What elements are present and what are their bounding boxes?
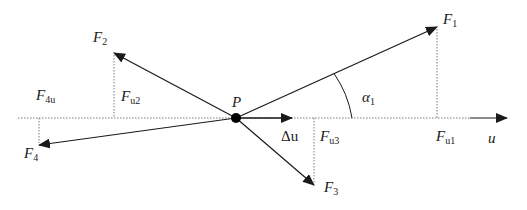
f4u-text: F xyxy=(36,87,45,103)
label-f3: F3 xyxy=(324,180,338,197)
label-f1: F1 xyxy=(443,12,457,29)
fu3-sub: u3 xyxy=(329,135,339,146)
label-alpha1: α1 xyxy=(362,90,375,107)
f2-text: F xyxy=(93,29,102,45)
label-fu1: Fu1 xyxy=(436,129,455,146)
label-f4u: F4u xyxy=(36,88,55,105)
u-axis-text: u xyxy=(488,130,496,146)
fu3-text: F xyxy=(320,128,329,144)
f4-text: F xyxy=(24,145,33,161)
label-u-axis: u xyxy=(488,131,496,146)
angle-arc-alpha1 xyxy=(334,74,352,119)
alpha-text: α xyxy=(362,89,370,105)
label-delta-u: Δu xyxy=(281,129,298,144)
fu1-text: F xyxy=(436,128,445,144)
fu1-sub: u1 xyxy=(445,135,455,146)
fu2-text: F xyxy=(121,88,130,104)
f3-sub: 3 xyxy=(333,186,338,197)
force-vector-f1 xyxy=(236,27,437,118)
f3-text: F xyxy=(324,179,333,195)
force-diagram: P F1 F2 F3 F4 Fu1 Fu2 Fu3 F4u Δu α1 u xyxy=(0,0,527,210)
f4-sub: 4 xyxy=(33,152,38,163)
point-p xyxy=(231,113,241,123)
f1-text: F xyxy=(443,11,452,27)
f4u-sub: 4u xyxy=(45,94,55,105)
delta-u-text: Δu xyxy=(281,128,298,144)
point-p-text: P xyxy=(232,94,241,110)
label-point-p: P xyxy=(232,95,241,110)
label-f4: F4 xyxy=(24,146,38,163)
f2-sub: 2 xyxy=(102,36,107,47)
label-f2: F2 xyxy=(93,30,107,47)
alpha-sub: 1 xyxy=(370,96,375,107)
fu2-sub: u2 xyxy=(130,95,140,106)
force-vector-f4 xyxy=(39,118,236,145)
label-fu3: Fu3 xyxy=(320,129,339,146)
diagram-graphics xyxy=(0,0,527,210)
label-fu2: Fu2 xyxy=(121,89,140,106)
f1-sub: 1 xyxy=(452,18,457,29)
force-vector-f3 xyxy=(236,118,314,185)
force-vector-f2 xyxy=(114,53,236,118)
